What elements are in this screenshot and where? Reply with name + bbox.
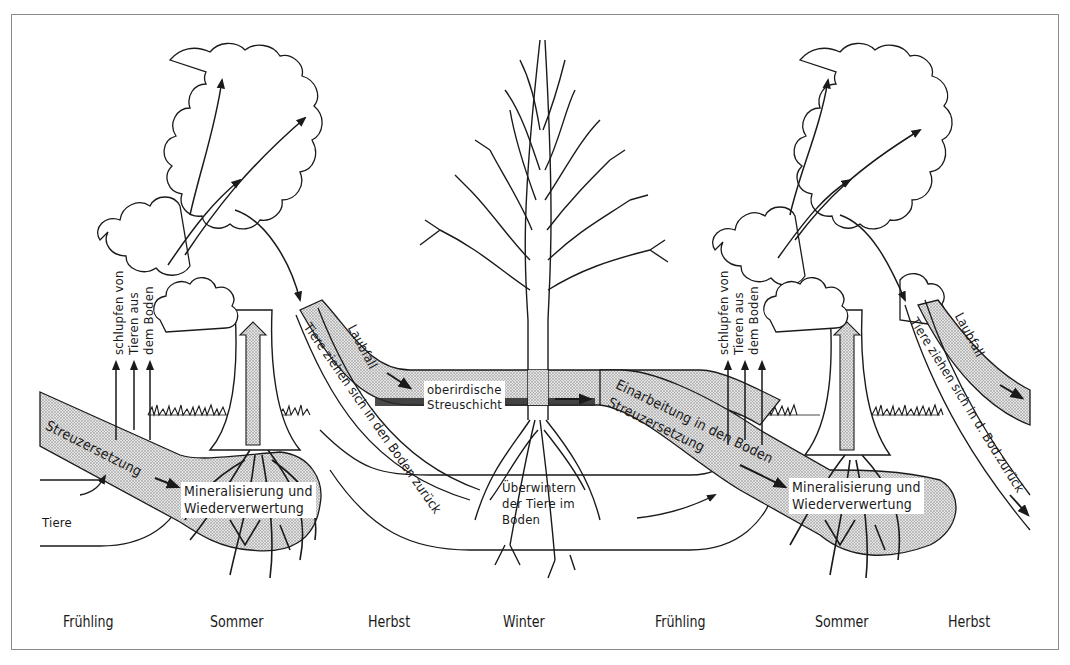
label-line: Streuschicht [427,397,502,412]
label-line: der Tiere im [502,496,576,512]
spring-return-arrow [637,495,715,518]
label-animals: Tiere [42,515,72,530]
label-overwintering: Überwintern der Tiere im Boden [502,480,576,528]
label-line: schlupfen von [111,270,126,355]
crown-right [794,43,952,229]
label-line: schlupfen von [716,270,731,355]
season-label: Frühling [63,612,114,631]
winter-trunk-band [528,370,548,405]
season-label: Sommer [210,612,263,631]
crown-left [164,43,322,229]
label-line: Boden [502,512,576,528]
label-line: Mineralisierung und [184,483,313,500]
label-line: Überwintern [502,480,576,496]
tree-winter [420,40,668,420]
season-label: Winter [503,612,545,631]
label-line: Mineralisierung und [792,479,921,496]
label-line: Tieren aus [731,270,746,355]
nutrient-cycle-illustration [0,0,1070,665]
label-line: dem Boden [141,270,156,355]
label-surface-litter: oberirdische Streuschicht [424,381,505,413]
label-line: Wiederverwertung [792,496,921,513]
label-line: oberirdische [427,382,502,397]
season-label: Frühling [655,612,706,631]
season-label: Herbst [368,612,410,631]
animals-retreat-arrow-right [1010,495,1028,515]
label-line: Tieren aus [126,270,141,355]
label-mineralization-right: Mineralisierung und Wiederverwertung [789,478,924,514]
label-emerge-left: schlupfen von Tieren aus dem Boden [111,270,156,355]
label-emerge-right: schlupfen von Tieren aus dem Boden [716,270,761,355]
season-label: Sommer [815,612,868,631]
label-mineralization-left: Mineralisierung und Wiederverwertung [181,482,316,518]
label-line: Wiederverwertung [184,500,313,517]
label-line: dem Boden [746,270,761,355]
season-label: Herbst [948,612,990,631]
